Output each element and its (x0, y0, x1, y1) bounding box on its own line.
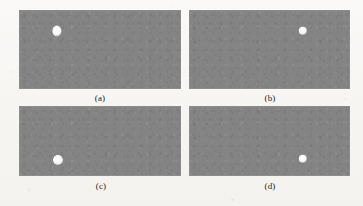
image-panel-b (189, 10, 350, 89)
bright-spot-marker-a (52, 26, 61, 37)
image-panel-c (19, 106, 181, 176)
image-panel-d (189, 106, 350, 176)
bright-spot-marker-c (53, 155, 63, 165)
panel-caption-b: (b) (264, 93, 275, 103)
panel-caption-a: (a) (95, 93, 106, 103)
bright-spot-marker-d (299, 155, 307, 163)
panel-caption-d: (d) (264, 181, 275, 191)
figure-panel-grid: (a) (b) (c) (d) (0, 0, 363, 206)
image-panel-a (19, 10, 181, 89)
panel-caption-c: (c) (96, 181, 107, 191)
bright-spot-marker-b (299, 27, 307, 35)
